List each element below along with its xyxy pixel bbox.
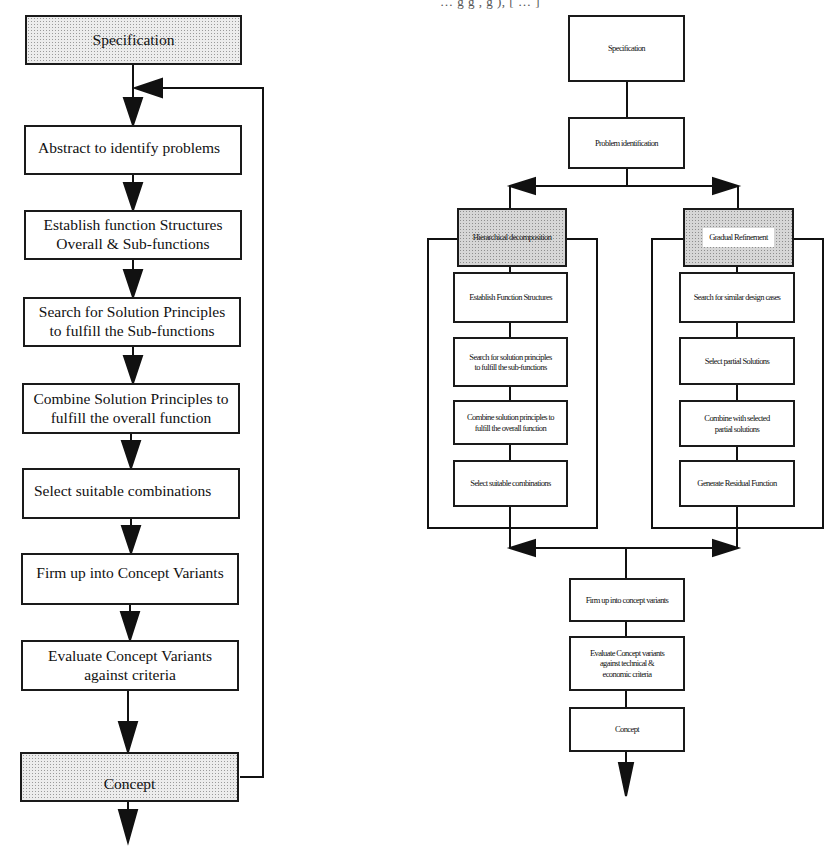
step-specification: Specification	[25, 15, 242, 65]
step-label: Search for Solution Principles to fulfil…	[39, 303, 225, 340]
branch1-step-establish: Establish Function Structures	[453, 272, 568, 323]
node-label: Evaluate Concept variants against techni…	[590, 648, 664, 679]
node-label: Specification	[608, 43, 645, 53]
step-label: Specification	[93, 31, 175, 50]
step-concept: Concept	[20, 752, 239, 802]
branch2-step-combine-partial: Combine with selected partial solutions	[679, 400, 795, 447]
branch-header-gradual-refinement: Gradual Refinement	[683, 208, 794, 267]
step-select-combinations: Select suitable combinations	[22, 468, 240, 519]
node-concept: Concept	[569, 707, 685, 752]
node-evaluate-variants: Evaluate Concept variants against techni…	[569, 636, 685, 691]
node-label: Select suitable combinations	[470, 478, 550, 488]
branch-header-label: Hierarchical decomposition	[467, 228, 558, 246]
branch1-step-search: Search for solution principles to fulfil…	[453, 337, 568, 387]
node-label: Search for similar design cases	[694, 292, 781, 302]
node-label: Problem identification	[595, 138, 658, 148]
node-problem-identification: Problem identification	[568, 117, 685, 169]
step-label: Select suitable combinations	[34, 482, 211, 501]
node-label: Combine solution principles to fulfill t…	[467, 412, 554, 432]
step-label: Combine Solution Principles to fulfill t…	[33, 390, 228, 427]
node-label: Firm up into concept variants	[586, 595, 669, 605]
step-label: Concept	[104, 775, 156, 794]
step-label: Abstract to identify problems	[38, 139, 220, 158]
branch2-step-residual-function: Generate Residual Function	[679, 460, 795, 507]
branch-header-label: Gradual Refinement	[703, 228, 773, 246]
step-label: Firm up into Concept Variants	[36, 564, 223, 583]
node-label: Combine with selected partial solutions	[704, 413, 769, 433]
branch2-step-search-similar: Search for similar design cases	[679, 272, 795, 323]
step-label: Establish function Structures Overall & …	[43, 216, 222, 253]
step-label: Evaluate Concept Variants against criter…	[48, 647, 212, 684]
node-specification: Specification	[568, 15, 685, 82]
step-evaluate-variants: Evaluate Concept Variants against criter…	[21, 640, 239, 691]
step-abstract-problems: Abstract to identify problems	[24, 125, 242, 175]
branch1-step-select: Select suitable combinations	[453, 460, 568, 507]
node-label: Select partial Solutions	[705, 356, 769, 366]
step-search-solution-principles: Search for Solution Principles to fulfil…	[23, 297, 241, 347]
node-label: Search for solution principles to fulfil…	[469, 352, 551, 372]
step-combine-solution-principles: Combine Solution Principles to fulfill t…	[22, 383, 240, 434]
branch1-step-combine: Combine solution principles to fulfill t…	[453, 400, 568, 445]
node-label: Concept	[615, 724, 639, 734]
step-firm-up-variants: Firm up into Concept Variants	[21, 553, 239, 605]
node-firm-up-variants: Firm up into concept variants	[569, 578, 685, 622]
step-establish-function-structures: Establish function Structures Overall & …	[24, 210, 242, 260]
node-label: Establish Function Structures	[469, 292, 552, 302]
node-label: Generate Residual Function	[697, 478, 776, 488]
branch-header-hierarchical-decomposition: Hierarchical decomposition	[457, 208, 567, 267]
branch2-step-select-partial: Select partial Solutions	[679, 337, 795, 385]
